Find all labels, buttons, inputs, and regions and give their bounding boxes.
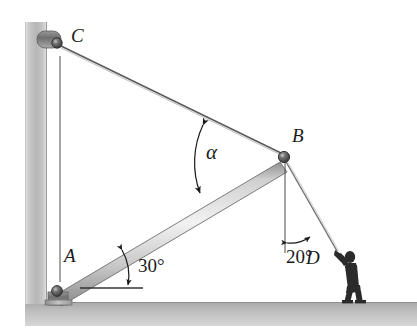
beam-ab — [54, 162, 287, 306]
angle-arc-alpha — [195, 125, 203, 193]
label-point-b: B — [292, 126, 304, 145]
rope-bd — [285, 160, 339, 252]
statics-figure: C B A D α 30° 20° — [0, 0, 417, 331]
pin-joint-b — [278, 151, 289, 162]
worker-figure — [334, 250, 366, 303]
pin-support-c — [37, 31, 62, 48]
label-point-a: A — [64, 246, 76, 265]
label-angle-30: 30° — [138, 256, 165, 275]
angle-arc-20 — [287, 237, 310, 243]
cable-bc — [59, 45, 283, 156]
label-point-c: C — [71, 26, 84, 45]
label-angle-alpha: α — [206, 142, 217, 163]
vertical-wall — [25, 22, 47, 304]
ground-surface — [25, 302, 417, 326]
label-angle-20: 20° — [286, 247, 313, 266]
figure-canvas — [0, 0, 417, 331]
